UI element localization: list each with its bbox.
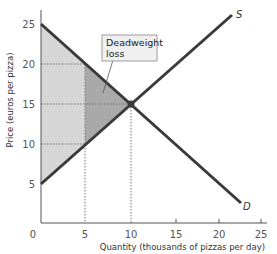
x-ticks	[176, 219, 261, 223]
svg-text:20: 20	[22, 59, 35, 70]
y-axis-title: Price (euros per pizza)	[5, 52, 15, 147]
y-tick-labels: 25 20 15 10 5	[22, 19, 35, 190]
x-axis-title: Quantity (thousands of pizzas per day)	[100, 242, 265, 252]
svg-text:25: 25	[22, 19, 35, 30]
deadweight-label-line2: loss	[106, 48, 124, 59]
deadweight-label-line1: Deadweight	[106, 37, 163, 48]
svg-text:15: 15	[170, 229, 183, 240]
supply-label: S	[236, 9, 243, 20]
equilibrium-point	[128, 101, 135, 108]
svg-text:10: 10	[125, 229, 138, 240]
svg-text:10: 10	[22, 139, 35, 150]
svg-text:5: 5	[82, 229, 88, 240]
demand-label: D	[243, 201, 251, 212]
svg-text:25: 25	[255, 229, 268, 240]
svg-text:5: 5	[29, 179, 35, 190]
x-tick-labels: 0 5 10 15 20 25	[30, 229, 268, 240]
svg-text:20: 20	[213, 229, 226, 240]
svg-text:15: 15	[22, 99, 35, 110]
svg-text:0: 0	[30, 229, 36, 240]
chart: Deadweight loss S D 25 20 15 10 5 0 5 10…	[0, 0, 277, 254]
